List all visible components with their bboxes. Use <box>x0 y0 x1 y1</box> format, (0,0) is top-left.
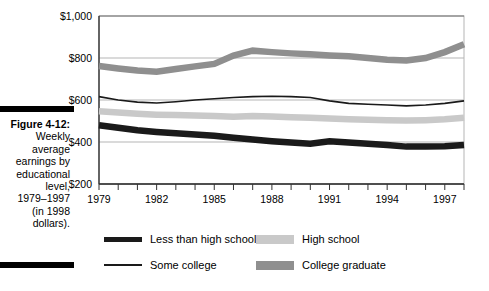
legend-item-high-school: High school <box>256 228 436 250</box>
legend-swatch-icon-some-college <box>104 264 142 266</box>
y-tick-label-600: $600 <box>69 94 93 106</box>
x-tick-label-1988: 1988 <box>260 193 284 205</box>
legend-item-less-than-high-school: Less than high school <box>104 228 254 250</box>
line-chart: $200$400$600$800$1,000197919821985198819… <box>50 6 489 206</box>
x-tick-label-1985: 1985 <box>203 193 227 205</box>
y-tick-label-1000: $1,000 <box>60 10 92 22</box>
legend-item-some-college: Some college <box>104 254 254 276</box>
legend-label-some-college: Some college <box>150 259 217 271</box>
x-tick-label-1997: 1997 <box>433 193 457 205</box>
caption-rule-bottom <box>0 262 74 268</box>
y-tick-label-800: $800 <box>69 52 93 64</box>
legend-label-less-than-high-school: Less than high school <box>150 233 256 245</box>
legend-item-college-graduate: College graduate <box>256 254 436 276</box>
legend-label-college-graduate: College graduate <box>302 259 386 271</box>
figure-page: Figure 4-12: Weekly average earnings by … <box>0 0 489 291</box>
caption-line-6: (in 1998 <box>32 205 70 217</box>
x-tick-label-1979: 1979 <box>87 193 111 205</box>
y-tick-label-200: $200 <box>69 178 93 190</box>
legend-swatch-icon-college-graduate <box>256 261 294 270</box>
chart-legend: Less than high school High school Some c… <box>104 228 489 282</box>
x-tick-label-1982: 1982 <box>145 193 169 205</box>
chart-canvas: $200$400$600$800$1,000197919821985198819… <box>50 6 489 206</box>
caption-line-7: dollars). <box>33 217 70 229</box>
legend-swatch-icon-high-school <box>256 235 294 244</box>
legend-swatch-icon-less-than-high-school <box>104 237 142 242</box>
x-tick-label-1994: 1994 <box>375 193 399 205</box>
legend-label-high-school: High school <box>302 233 359 245</box>
x-tick-label-1991: 1991 <box>318 193 342 205</box>
y-tick-label-400: $400 <box>69 136 93 148</box>
